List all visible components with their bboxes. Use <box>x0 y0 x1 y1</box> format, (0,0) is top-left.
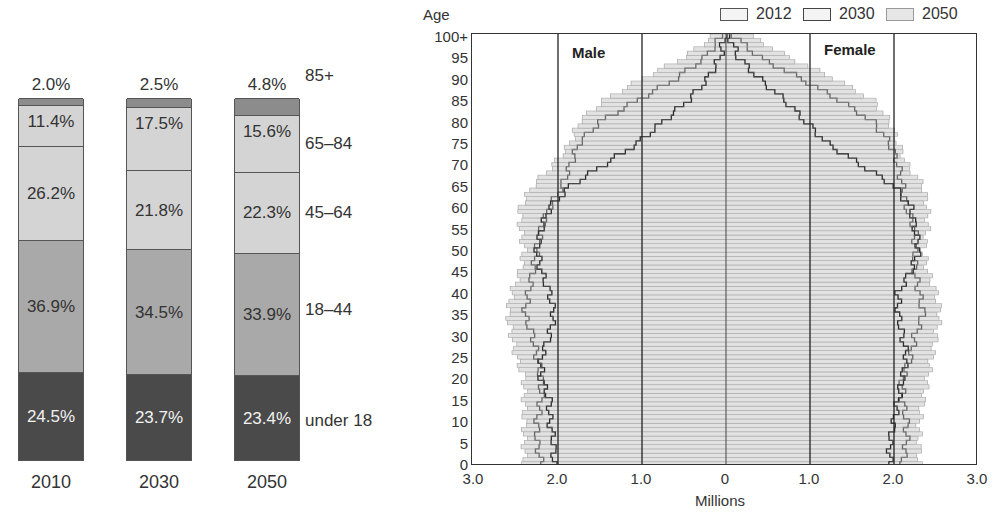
age-group-label: under 18 <box>305 411 372 431</box>
segment-value-label: 15.6% <box>235 122 299 142</box>
y-tick-label: 40 <box>451 286 468 301</box>
legend-swatch-icon <box>886 8 914 21</box>
legend-item-2012: 2012 <box>720 5 792 23</box>
age-group-label: 65–84 <box>305 134 352 154</box>
segment-value-label: 36.9% <box>19 297 83 317</box>
y-tick-label: 10 <box>451 414 468 429</box>
segment-value-label: 21.8% <box>127 201 191 221</box>
segment-45-64: 22.3% <box>235 172 299 253</box>
segment-value-label: 26.2% <box>19 184 83 204</box>
y-tick-label: 80 <box>451 115 468 130</box>
segment-18-44: 34.5% <box>127 249 191 374</box>
segment-value-label: 23.4% <box>235 409 299 429</box>
top-pct-label: 2.5% <box>119 75 199 95</box>
pyramid-svg <box>472 34 977 465</box>
x-tick-label: 3.0 <box>453 470 493 487</box>
y-tick-label: 35 <box>451 307 468 322</box>
y-tick-label: 70 <box>451 157 468 172</box>
legend-swatch-icon <box>720 8 748 21</box>
age-group-label: 85+ <box>305 66 334 86</box>
segment-under-18: 23.7% <box>127 374 191 460</box>
year-label-2050: 2050 <box>227 472 307 493</box>
x-tick-label: 1.0 <box>621 470 661 487</box>
segment-value-label: 17.5% <box>127 114 191 134</box>
segment-65-84: 11.4% <box>19 105 83 146</box>
y-tick-label: 45 <box>451 264 468 279</box>
y-tick-label: 60 <box>451 200 468 215</box>
x-tick-label: 1.0 <box>789 470 829 487</box>
y-tick-label: 95 <box>451 50 468 65</box>
segment-45-64: 26.2% <box>19 146 83 240</box>
age-group-label: 18–44 <box>305 300 352 320</box>
y-tick-label: 100+ <box>434 29 468 44</box>
segment-85- <box>235 98 299 115</box>
x-tick-label: 0 <box>705 470 745 487</box>
segment-value-label: 34.5% <box>127 303 191 323</box>
legend-item-2050: 2050 <box>886 5 958 23</box>
stacked-bar-2010: 24.5%36.9%26.2%11.4% <box>18 99 84 461</box>
age-group-label: 45–64 <box>305 203 352 223</box>
y-tick-label: 15 <box>451 393 468 408</box>
y-tick-label: 85 <box>451 93 468 108</box>
stacked-bar-2050: 23.4%33.9%22.3%15.6% <box>234 99 300 461</box>
male-label: Male <box>572 44 605 61</box>
legend-label: 2030 <box>839 5 875 23</box>
segment-65-84: 17.5% <box>127 107 191 170</box>
year-label-2010: 2010 <box>11 472 91 493</box>
y-tick-label: 5 <box>460 436 468 451</box>
segment-18-44: 33.9% <box>235 253 299 376</box>
segment-45-64: 21.8% <box>127 170 191 249</box>
segment-value-label: 24.5% <box>19 407 83 427</box>
segment-65-84: 15.6% <box>235 115 299 171</box>
x-tick-label: 2.0 <box>537 470 577 487</box>
segment-85- <box>19 98 83 105</box>
segment-value-label: 23.7% <box>127 408 191 428</box>
segment-under-18: 24.5% <box>19 372 83 460</box>
segment-18-44: 36.9% <box>19 240 83 372</box>
y-tick-label: 30 <box>451 329 468 344</box>
legend-item-2030: 2030 <box>803 5 875 23</box>
segment-value-label: 33.9% <box>235 305 299 325</box>
y-tick-label: 90 <box>451 72 468 87</box>
pyramid-x-axis-title: Millions <box>695 492 745 509</box>
y-tick-label: 20 <box>451 371 468 386</box>
segment-under-18: 23.4% <box>235 375 299 460</box>
segment-value-label: 11.4% <box>19 112 83 132</box>
pyramid-plot-area <box>471 33 977 465</box>
year-label-2030: 2030 <box>119 472 199 493</box>
legend-label: 2050 <box>922 5 958 23</box>
segment-value-label: 22.3% <box>235 203 299 223</box>
legend-swatch-icon <box>803 8 831 21</box>
y-tick-label: 75 <box>451 136 468 151</box>
stacked-bar-2030: 23.7%34.5%21.8%17.5% <box>126 99 192 461</box>
female-label: Female <box>824 41 876 58</box>
y-tick-label: 25 <box>451 350 468 365</box>
y-tick-label: 55 <box>451 222 468 237</box>
pyramid-y-ticks: 0510152025303540455055606570758085909510… <box>400 0 468 519</box>
top-pct-label: 2.0% <box>11 75 91 95</box>
x-tick-label: 3.0 <box>957 470 993 487</box>
segment-85- <box>127 98 191 107</box>
top-pct-label: 4.8% <box>227 75 307 95</box>
y-tick-label: 50 <box>451 243 468 258</box>
legend-label: 2012 <box>756 5 792 23</box>
y-tick-label: 65 <box>451 179 468 194</box>
x-tick-label: 2.0 <box>873 470 913 487</box>
